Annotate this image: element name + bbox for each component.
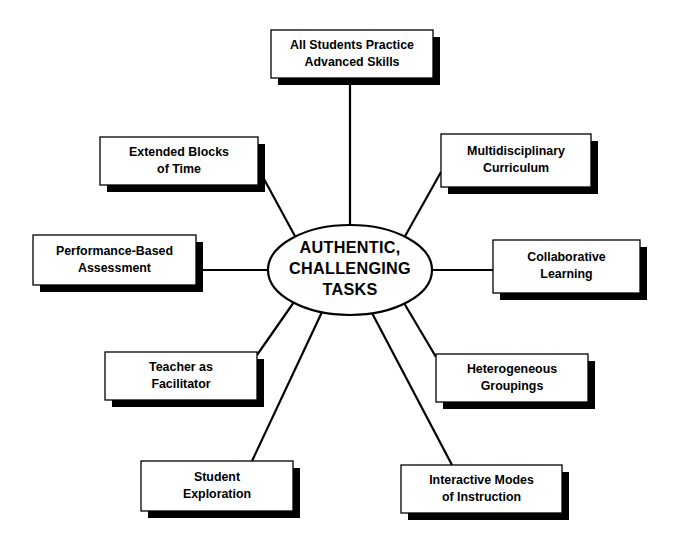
node-label-interactive-modes-of-instruction: Interactive Modes [429,473,534,487]
node-label-interactive-modes-of-instruction: of Instruction [442,490,521,504]
node-label-performance-based-assessment: Assessment [78,261,151,275]
node-label-all-students-practice-advanced-skills: All Students Practice [290,38,414,52]
node-collaborative-learning[interactable]: CollaborativeLearning [493,240,647,300]
center-node-label: TASKS [322,280,377,298]
hub-and-spoke-diagram: All Students PracticeAdvanced SkillsMult… [0,0,700,552]
node-teacher-as-facilitator[interactable]: Teacher asFacilitator [105,352,264,407]
node-extended-blocks-of-time[interactable]: Extended Blocksof Time [100,137,265,192]
node-label-heterogeneous-groupings: Groupings [481,379,544,393]
node-label-performance-based-assessment: Performance-Based [56,244,173,258]
node-label-student-exploration: Exploration [183,487,251,501]
node-label-collaborative-learning: Collaborative [527,250,606,264]
node-label-all-students-practice-advanced-skills: Advanced Skills [304,55,399,69]
connector-teacher-as-facilitator [257,302,294,355]
connector-multidisciplinary-curriculum [404,172,441,238]
node-heterogeneous-groupings[interactable]: HeterogeneousGroupings [436,354,595,409]
center-node-group: AUTHENTIC,CHALLENGINGTASKS [268,225,432,315]
node-label-teacher-as-facilitator: Teacher as [149,360,213,374]
node-label-multidisciplinary-curriculum: Multidisciplinary [467,144,565,158]
node-label-extended-blocks-of-time: of Time [157,162,201,176]
node-interactive-modes-of-instruction[interactable]: Interactive Modesof Instruction [401,465,569,520]
node-label-collaborative-learning: Learning [540,267,592,281]
node-multidisciplinary-curriculum[interactable]: MultidisciplinaryCurriculum [441,134,598,194]
node-student-exploration[interactable]: StudentExploration [141,461,300,518]
diagram-root: All Students PracticeAdvanced SkillsMult… [0,0,700,552]
node-performance-based-assessment[interactable]: Performance-BasedAssessment [33,235,203,292]
center-node-label: CHALLENGING [289,259,411,277]
node-label-heterogeneous-groupings: Heterogeneous [467,362,557,376]
node-label-student-exploration: Student [194,470,240,484]
center-node-label: AUTHENTIC, [299,238,400,256]
node-label-multidisciplinary-curriculum: Curriculum [483,161,549,175]
node-label-extended-blocks-of-time: Extended Blocks [129,145,229,159]
node-label-teacher-as-facilitator: Facilitator [151,377,210,391]
connector-heterogeneous-groupings [404,303,436,357]
node-all-students-practice-advanced-skills[interactable]: All Students PracticeAdvanced Skills [271,30,440,85]
